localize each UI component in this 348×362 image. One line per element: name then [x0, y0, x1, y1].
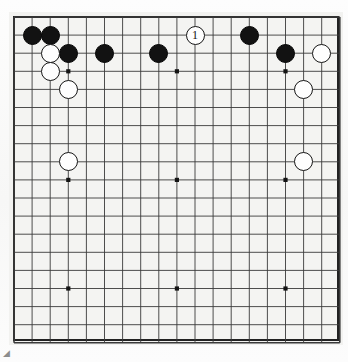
stone-white[interactable]: [312, 44, 331, 63]
stone-black[interactable]: [149, 44, 168, 63]
stone-black[interactable]: [276, 44, 295, 63]
star-point: [66, 178, 70, 182]
star-point: [283, 178, 287, 182]
stone-black[interactable]: [23, 26, 42, 45]
stone-white[interactable]: [41, 44, 60, 63]
corner-page-mark: ◢: [3, 349, 10, 357]
stone-black[interactable]: [95, 44, 114, 63]
star-point: [283, 286, 287, 290]
stone-black[interactable]: [41, 26, 60, 45]
star-point: [175, 286, 179, 290]
stone-white[interactable]: [41, 62, 60, 81]
go-board-diagram: 1 ◢: [0, 0, 348, 362]
stone-white[interactable]: [59, 152, 78, 171]
stone-black[interactable]: [59, 44, 78, 63]
star-point: [175, 69, 179, 73]
star-point: [66, 286, 70, 290]
stone-black[interactable]: [240, 26, 259, 45]
stone-white[interactable]: [294, 80, 313, 99]
move-number-label: 1: [187, 27, 204, 43]
star-point: [66, 69, 70, 73]
stone-white[interactable]: [59, 80, 78, 99]
stone-white[interactable]: 1: [186, 26, 205, 45]
star-point: [283, 69, 287, 73]
star-point: [175, 178, 179, 182]
